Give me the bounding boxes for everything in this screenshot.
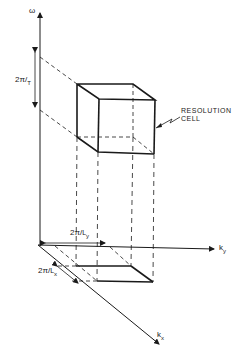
ly-resolution-label: 2π/Ly <box>70 228 89 239</box>
floor-projection <box>76 266 153 282</box>
resolution-cell-diagram <box>0 0 244 356</box>
kx-label: kx <box>157 330 164 341</box>
kx-axis <box>38 245 159 344</box>
omega-label: ω <box>29 6 35 15</box>
time-resolution-label: 2π/T <box>15 75 31 86</box>
resolution-cell-label: RESOLUTION CELL <box>181 107 232 123</box>
ky-axis <box>38 245 214 249</box>
resolution-cell-cube <box>77 84 155 154</box>
lx-resolution-label: 2π/Lx <box>38 266 57 277</box>
ky-label: ky <box>219 243 226 254</box>
projection-lines <box>76 137 154 282</box>
